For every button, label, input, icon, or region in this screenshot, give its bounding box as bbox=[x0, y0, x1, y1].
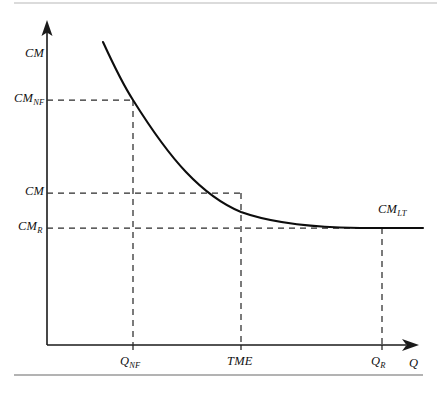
figure-container: CM CMNF CM CMR QNF TME QR Q CMLT bbox=[0, 0, 437, 394]
y-tick-label-cm-r: CMR bbox=[18, 220, 42, 233]
x-tick-label-q-nf-base: Q bbox=[120, 354, 129, 368]
x-axis-title-text: Q bbox=[409, 356, 418, 370]
x-axis-title: Q bbox=[409, 357, 418, 370]
y-tick-label-cm-nf-base: CM bbox=[14, 91, 33, 105]
curve-label-cm-lt: CMLT bbox=[378, 203, 407, 216]
chart-canvas bbox=[0, 0, 437, 394]
x-tick-label-q-r-sub: R bbox=[380, 360, 385, 370]
x-tick-label-q-nf: QNF bbox=[120, 355, 140, 368]
curve-label-cm-lt-sub: LT bbox=[397, 208, 407, 218]
x-tick-label-q-r: QR bbox=[371, 355, 386, 368]
y-tick-label-cm: CM bbox=[25, 185, 44, 198]
y-tick-label-cm-r-sub: R bbox=[37, 225, 42, 235]
x-tick-label-q-nf-sub: NF bbox=[129, 360, 140, 370]
y-tick-label-cm-nf: CMNF bbox=[14, 92, 44, 105]
y-tick-label-cm-nf-sub: NF bbox=[33, 97, 44, 107]
x-tick-label-tme: TME bbox=[227, 355, 253, 368]
y-axis-title: CM bbox=[25, 47, 44, 60]
cm-lt-curve bbox=[103, 42, 423, 228]
x-tick-label-q-r-base: Q bbox=[371, 354, 380, 368]
y-tick-label-cm-base: CM bbox=[25, 184, 44, 198]
x-tick-label-tme-base: TME bbox=[227, 354, 253, 368]
y-tick-label-cm-r-base: CM bbox=[18, 219, 37, 233]
y-axis-title-text: CM bbox=[25, 46, 44, 60]
curve-label-cm-lt-base: CM bbox=[378, 202, 397, 216]
